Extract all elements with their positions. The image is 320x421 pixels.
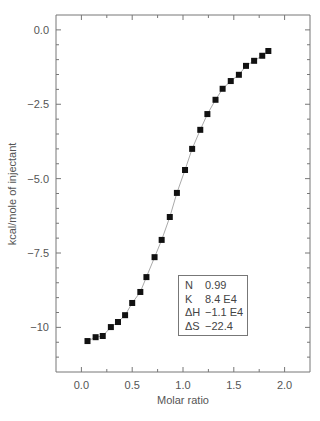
x-tick-label: 0.0 (74, 379, 89, 391)
data-point (197, 127, 203, 133)
data-point (152, 254, 158, 260)
data-point (259, 53, 265, 59)
param-value: −22.4 (205, 320, 233, 334)
y-axis-title: kcal/mole of injectant (6, 143, 18, 246)
data-point (228, 78, 234, 84)
itc-chart: 0.00.51.01.52.00.0−2.5−5.0−7.5−10 Molar … (0, 0, 320, 421)
x-tick-label: 1.0 (175, 379, 190, 391)
x-tick-label: 2.0 (277, 379, 292, 391)
data-point (159, 237, 165, 243)
data-point (213, 97, 219, 103)
y-tick-label: 0.0 (34, 24, 49, 36)
data-point (265, 48, 271, 54)
param-row-k: K 8.4 E4 (185, 293, 247, 307)
param-value: 8.4 E4 (205, 293, 237, 307)
data-point (251, 58, 257, 64)
x-tick-label: 0.5 (125, 379, 140, 391)
y-tick-label: −5.0 (27, 173, 49, 185)
data-point (143, 274, 149, 280)
data-point (84, 338, 90, 344)
param-key: K (185, 293, 205, 307)
y-tick-label: −10 (30, 321, 49, 333)
param-row-ds: ΔS −22.4 (185, 320, 247, 334)
param-key: N (185, 279, 205, 293)
data-point (122, 312, 128, 318)
param-key: ΔH (185, 306, 205, 320)
x-tick-label: 1.5 (226, 379, 241, 391)
data-point (115, 319, 121, 325)
param-value: −1.1 E4 (205, 306, 243, 320)
data-point (243, 63, 249, 69)
data-point (93, 334, 99, 340)
data-point (167, 214, 173, 220)
fit-parameters-box: N 0.99 K 8.4 E4 ΔH −1.1 E4 ΔS −22.4 (178, 275, 248, 336)
param-row-n: N 0.99 (185, 279, 247, 293)
y-tick-label: −2.5 (27, 98, 49, 110)
data-point (182, 167, 188, 173)
data-point (236, 72, 242, 78)
param-key: ΔS (185, 320, 205, 334)
param-row-dh: ΔH −1.1 E4 (185, 306, 247, 320)
data-point (129, 300, 135, 306)
data-point (100, 333, 106, 339)
tick-labels: 0.00.51.01.52.00.0−2.5−5.0−7.5−10 (27, 24, 292, 391)
data-point (137, 289, 143, 295)
y-tick-label: −7.5 (27, 247, 49, 259)
param-value: 0.99 (205, 279, 226, 293)
data-point (204, 111, 210, 117)
data-point (189, 146, 195, 152)
data-point (220, 86, 226, 92)
data-point (174, 190, 180, 196)
x-axis-title: Molar ratio (157, 394, 209, 406)
data-point (108, 324, 114, 330)
